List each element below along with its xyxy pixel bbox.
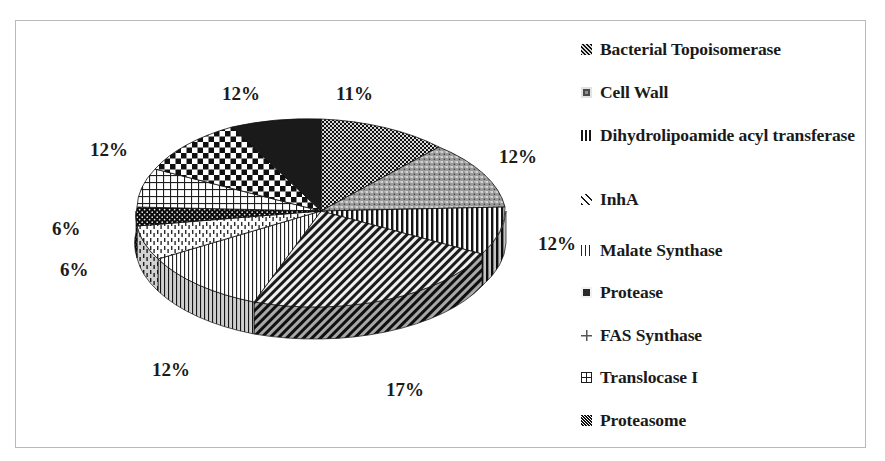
pie-label-fas-synthase: 6% [60, 259, 89, 281]
legend-label-proteasome: Proteasome [600, 410, 686, 431]
legend-swatch-dashed-dots-icon [581, 287, 592, 298]
legend-item-malate-synthase[interactable]: Malate Synthase [581, 240, 866, 261]
pie-label-bacterial-topoisomerase: 11% [336, 83, 373, 105]
legend-swatch-grid-mesh-icon [581, 372, 592, 383]
legend-label-protease: Protease [600, 282, 663, 303]
pie-label-inha: 17% [386, 379, 424, 401]
legend-label-dihydrolipoamide-acyl-transferase: Dihydrolipoamide acyl transferase [600, 125, 855, 146]
legend-swatch-vertical-stripes-icon [581, 130, 592, 141]
legend-item-inha[interactable]: InhA [581, 189, 866, 210]
legend-label-malate-synthase: Malate Synthase [600, 240, 722, 261]
legend-swatch-diagonal-hatch-icon [581, 194, 592, 205]
legend-item-bacterial-topoisomerase[interactable]: Bacterial Topoisomerase [581, 39, 866, 60]
legend-label-translocase-i: Translocase I [600, 367, 698, 388]
legend-item-fas-synthase[interactable]: FAS Synthase [581, 325, 866, 346]
pie-chart-plot-area: 12% 11% 12% 12% 6% 6% 12% 12% 17% [16, 21, 576, 447]
pie-label-malate-synthase: 12% [152, 359, 190, 381]
chart-legend: Bacterial Topoisomerase Cell Wall Dihydr… [576, 29, 866, 439]
legend-swatch-black-dots-icon [581, 330, 592, 341]
legend-label-cell-wall: Cell Wall [600, 82, 668, 103]
legend-label-inha: InhA [600, 189, 639, 210]
legend-item-proteasome[interactable]: Proteasome [581, 410, 866, 431]
pie-label-dihydrolipoamide: 12% [538, 233, 576, 255]
pie-label-proteasome-left: 12% [90, 139, 128, 161]
legend-swatch-fine-vertical-lines-icon [581, 245, 592, 256]
legend-swatch-checkerboard-icon [581, 415, 592, 426]
pie-label-translocase-i: 6% [52, 218, 81, 240]
legend-label-fas-synthase: FAS Synthase [600, 325, 702, 346]
pie-label-cell-wall: 12% [499, 146, 537, 168]
pie-label-proteasome: 12% [222, 83, 260, 105]
legend-swatch-gray-speckle-icon [581, 87, 592, 98]
pie-chart-svg [16, 21, 576, 447]
legend-item-cell-wall[interactable]: Cell Wall [581, 82, 866, 103]
chart-frame: 12% 11% 12% 12% 6% 6% 12% 12% 17% Bacter… [15, 20, 866, 448]
legend-swatch-dark-checker-dots-icon [581, 44, 592, 55]
legend-item-translocase-i[interactable]: Translocase I [581, 367, 866, 388]
legend-item-protease[interactable]: Protease [581, 282, 866, 303]
legend-label-bacterial-topoisomerase: Bacterial Topoisomerase [600, 39, 781, 60]
legend-item-dihydrolipoamide-acyl-transferase[interactable]: Dihydrolipoamide acyl transferase [581, 125, 866, 146]
